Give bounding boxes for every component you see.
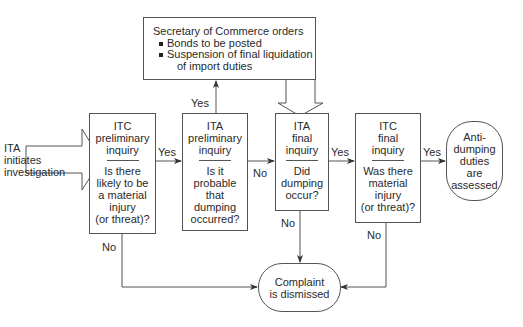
- edge-label-no: No: [102, 241, 116, 253]
- secretary-down-arrow: [278, 79, 323, 116]
- step-question: that: [183, 189, 247, 201]
- step-head: preliminary: [183, 132, 247, 144]
- step-question: occur?: [276, 189, 328, 201]
- step-question: a material: [90, 189, 155, 201]
- step-question: material: [356, 177, 420, 189]
- step-head: inquiry: [276, 144, 328, 156]
- step-question: injury: [356, 189, 420, 201]
- outcome-text: is dismissed: [270, 288, 330, 300]
- outcome-text: are: [451, 167, 497, 179]
- start-line: ITA: [4, 142, 65, 154]
- step-head: final: [276, 132, 328, 144]
- step-head: ITA: [276, 120, 328, 132]
- edge-label-yes: Yes: [423, 146, 441, 158]
- edge-label-no: No: [253, 167, 267, 179]
- start-line: investigation: [4, 166, 65, 178]
- step-question: dumping: [183, 201, 247, 213]
- divider: [372, 160, 404, 161]
- step-head: inquiry: [90, 144, 155, 156]
- step-question: Is there: [90, 165, 155, 177]
- step-itc-preliminary-inquiry: ITC preliminary inquiry Is there likely …: [89, 113, 156, 234]
- step-question: injury: [90, 201, 155, 213]
- start-node: ITA initiates investigation: [4, 142, 65, 178]
- bullet-text: Suspension of final liquidation: [167, 49, 313, 61]
- outcome-complaint-dismissed: Complaint is dismissed: [258, 263, 341, 312]
- step-head: ITA: [183, 120, 247, 132]
- divider: [286, 160, 318, 161]
- step-head: inquiry: [356, 144, 420, 156]
- divider: [107, 160, 139, 161]
- step-head: inquiry: [183, 144, 247, 156]
- outcome-text: dumping: [451, 143, 497, 155]
- step-question: Did: [276, 165, 328, 177]
- secretary-orders-text: Secretary of Commerce orders Bonds to be…: [153, 26, 313, 72]
- outcome-text: duties: [451, 155, 497, 167]
- secretary-title: Secretary of Commerce orders: [153, 26, 313, 38]
- outcome-text: assessed: [451, 179, 497, 191]
- outcome-text: Anti-: [451, 131, 497, 143]
- start-line: initiates: [4, 154, 65, 166]
- bullet-continuation: of import duties: [153, 61, 313, 73]
- edge-label-yes: Yes: [158, 146, 176, 158]
- step-question: (or threat)?: [356, 201, 420, 213]
- step-question: occurred?: [183, 213, 247, 225]
- step-question: likely to be: [90, 177, 155, 189]
- divider: [199, 160, 231, 161]
- edge-label-yes: Yes: [191, 97, 209, 109]
- outcome-duties-assessed: Anti- dumping duties are assessed: [446, 121, 503, 201]
- step-question: Is it: [183, 165, 247, 177]
- step-question: dumping: [276, 177, 328, 189]
- step-head: preliminary: [90, 132, 155, 144]
- edge-label-no: No: [367, 229, 381, 241]
- step-ita-final-inquiry: ITA final inquiry Did dumping occur?: [275, 113, 329, 211]
- bullet-square-icon: [159, 42, 163, 46]
- edge-label-no: No: [281, 217, 295, 229]
- bullet-square-icon: [159, 53, 163, 57]
- step-itc-final-inquiry: ITC final inquiry Was there material inj…: [355, 113, 421, 223]
- edge-label-yes: Yes: [331, 146, 349, 158]
- step-question: (or threat)?: [90, 213, 155, 225]
- outcome-text: Complaint: [270, 276, 330, 288]
- step-head: ITC: [90, 120, 155, 132]
- step-head: final: [356, 132, 420, 144]
- step-question: Was there: [356, 165, 420, 177]
- step-ita-preliminary-inquiry: ITA preliminary inquiry Is it probable t…: [182, 113, 248, 231]
- secretary-bullet: Suspension of final liquidation: [153, 49, 313, 61]
- step-head: ITC: [356, 120, 420, 132]
- step-question: probable: [183, 177, 247, 189]
